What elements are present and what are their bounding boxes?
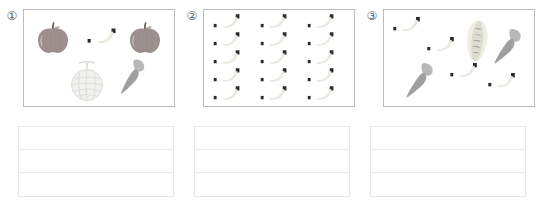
scene-items [204,10,354,106]
banana-icon [213,68,241,86]
banana-icon [213,86,241,104]
panel-3: ③ [360,0,540,118]
banana-icon [213,32,241,50]
answer-box-1-line-3[interactable] [19,173,173,196]
banana-icon [260,14,288,32]
scene-items [24,10,174,106]
banana-icon [213,14,241,32]
answer-box-2-line-1[interactable] [195,127,349,150]
apple-icon [128,22,162,54]
worksheet-page: ① [0,0,549,207]
banana-icon [307,86,335,104]
carrot-icon [398,57,439,106]
answer-box-3-line-2[interactable] [371,150,525,173]
banana-icon [393,17,422,36]
panel-3-number: ③ [364,8,380,24]
banana-icon [87,28,117,48]
melon-icon [68,60,106,102]
banana-icon [450,63,479,82]
panel-2-scene [203,9,355,107]
banana-icon [260,50,288,68]
answer-box-1-line-1[interactable] [19,127,173,150]
panel-2: ② [180,0,360,118]
answer-box-2-line-3[interactable] [195,173,349,196]
banana-icon [307,68,335,86]
banana-icon [260,32,288,50]
banana-icon [260,68,288,86]
banana-icon [307,50,335,68]
panel-1-scene [23,9,175,107]
answer-box-2[interactable] [194,126,350,197]
panel-2-number: ② [184,8,200,24]
answer-box-1-line-2[interactable] [19,150,173,173]
answer-box-1[interactable] [18,126,174,197]
answer-box-3-line-1[interactable] [371,127,525,150]
banana-icon [307,32,335,50]
panel-3-scene [383,9,535,107]
carrot-icon [113,55,150,101]
panel-1-number: ① [4,8,20,24]
banana-icon [307,14,335,32]
scene-items [384,10,534,106]
panel-1: ① [0,0,180,118]
apple-icon [36,22,70,54]
answer-box-3[interactable] [370,126,526,197]
answer-box-3-line-3[interactable] [371,173,525,196]
banana-icon [213,50,241,68]
banana-icon [488,73,517,92]
answer-box-2-line-2[interactable] [195,150,349,173]
banana-icon [427,37,456,56]
banana-icon [260,86,288,104]
